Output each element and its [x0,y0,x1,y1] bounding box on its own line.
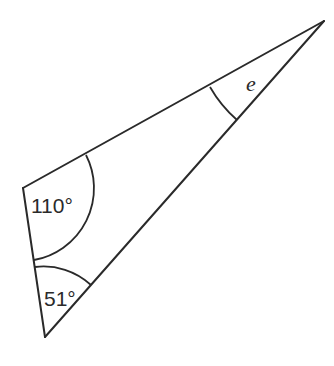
angle-label-51: 51° [44,287,76,310]
triangle-diagram: 110° 51° e [0,0,334,366]
edge-left-top-right [23,21,324,188]
edge-top-right-bottom [45,21,324,337]
triangle-svg: 110° 51° e [0,0,334,366]
angle-arc-51 [35,266,91,285]
angle-label-110: 110° [31,194,73,217]
angle-arc-e [210,87,237,120]
angle-label-e: e [246,71,256,96]
